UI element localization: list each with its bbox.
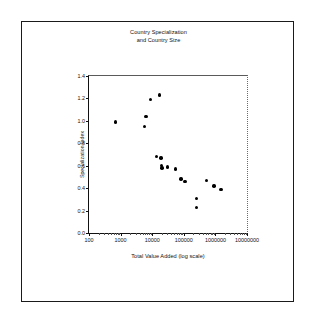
x-axis-minor-tick — [206, 233, 207, 235]
x-axis-minor-tick — [177, 233, 178, 235]
x-axis-minor-tick — [104, 233, 105, 235]
y-axis-tick-label: 0.4 — [78, 185, 86, 191]
y-axis-tick — [86, 188, 89, 189]
data-point — [114, 120, 117, 123]
chart-title-line-2: and Country Size — [22, 36, 295, 44]
x-axis-tick-label: 100 — [85, 237, 94, 243]
data-point — [143, 125, 146, 128]
x-axis-minor-tick — [114, 233, 115, 235]
x-axis-minor-tick — [130, 233, 131, 235]
data-point — [205, 179, 208, 182]
y-axis-tick-label: 0.2 — [78, 208, 86, 214]
x-axis-minor-tick — [140, 233, 141, 235]
figure-border: Country Specialization and Country Size … — [21, 21, 294, 302]
y-axis-tick — [86, 98, 89, 99]
x-axis-tick-label: 100000 — [175, 237, 193, 243]
x-axis-minor-tick — [119, 233, 120, 235]
x-axis-minor-tick — [225, 233, 226, 235]
data-point — [144, 115, 147, 118]
x-axis-minor-tick — [136, 233, 137, 235]
data-point — [183, 180, 186, 183]
data-point — [166, 165, 169, 168]
x-axis-minor-tick — [203, 233, 204, 235]
x-axis-minor-tick — [111, 233, 112, 235]
x-axis-minor-tick — [214, 233, 215, 235]
x-axis-tick-label: 1000000 — [205, 237, 226, 243]
y-axis-tick — [86, 211, 89, 212]
x-axis-tick — [152, 233, 153, 236]
x-axis-minor-tick — [230, 233, 231, 235]
x-axis-minor-tick — [171, 233, 172, 235]
x-axis-minor-tick — [246, 233, 247, 235]
x-axis-minor-tick — [99, 233, 100, 235]
x-axis-tick — [121, 233, 122, 236]
x-axis-minor-tick — [182, 233, 183, 235]
x-axis-minor-tick — [234, 233, 235, 235]
chart-title-line-1: Country Specialization — [22, 28, 295, 36]
x-axis-tick — [184, 233, 185, 236]
x-axis-minor-tick — [237, 233, 238, 235]
x-axis-minor-tick — [143, 233, 144, 235]
x-axis-minor-tick — [108, 233, 109, 235]
plot-area: 0.00.20.40.60.81.01.21.41001000100001000… — [88, 75, 248, 234]
y-axis-tick — [86, 76, 89, 77]
x-axis-minor-tick — [151, 233, 152, 235]
data-point — [155, 155, 158, 158]
data-point — [212, 184, 215, 187]
data-point — [195, 197, 198, 200]
data-point — [174, 167, 177, 170]
x-axis-minor-tick — [179, 233, 180, 235]
y-axis-tick-label: 1.2 — [78, 95, 86, 101]
data-point — [195, 206, 198, 209]
plot-inner: 0.00.20.40.60.81.01.21.41001000100001000… — [89, 76, 247, 233]
x-axis-tick — [247, 233, 248, 236]
chart-title: Country Specialization and Country Size — [22, 28, 295, 44]
page-canvas: Country Specialization and Country Size … — [0, 0, 315, 325]
x-axis-tick-label: 10000000 — [235, 237, 259, 243]
x-axis-tick-label: 10000 — [145, 237, 160, 243]
x-axis-tick — [215, 233, 216, 236]
x-axis-minor-tick — [174, 233, 175, 235]
y-axis-tick-label: 1.4 — [78, 73, 86, 79]
x-axis-minor-tick — [162, 233, 163, 235]
y-axis-tick — [86, 121, 89, 122]
data-point — [179, 177, 182, 180]
x-axis-minor-tick — [240, 233, 241, 235]
x-axis-minor-tick — [145, 233, 146, 235]
x-axis-minor-tick — [193, 233, 194, 235]
x-axis-tick-label: 1000 — [115, 237, 127, 243]
data-point — [159, 156, 162, 159]
x-axis-tick — [89, 233, 90, 236]
x-axis-minor-tick — [242, 233, 243, 235]
x-axis-minor-tick — [199, 233, 200, 235]
x-axis-title: Total Value Added (log scale) — [88, 253, 248, 259]
y-axis-tick-label: 0.8 — [78, 140, 86, 146]
data-point — [219, 188, 222, 191]
y-axis-tick-label: 1.0 — [78, 118, 86, 124]
y-axis-tick-label: 0.6 — [78, 163, 86, 169]
data-point — [158, 93, 161, 96]
y-axis-tick — [86, 143, 89, 144]
data-point — [160, 166, 163, 169]
x-axis-minor-tick — [167, 233, 168, 235]
y-axis-tick-label: 0.0 — [78, 230, 86, 236]
y-axis-tick — [86, 166, 89, 167]
x-axis-minor-tick — [208, 233, 209, 235]
data-point — [149, 98, 152, 101]
